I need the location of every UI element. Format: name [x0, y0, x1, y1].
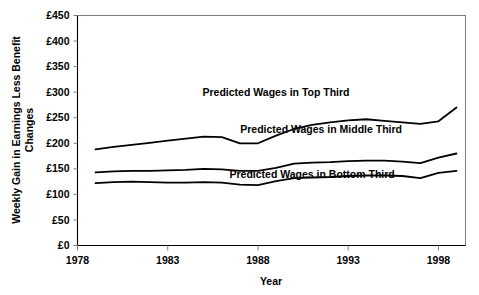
x-tick-label: 1983 [156, 254, 180, 266]
y-tick-label: £450 [46, 9, 70, 21]
chart-background [0, 0, 479, 295]
y-tick-label: £150 [46, 162, 70, 174]
y-tick-label: £250 [46, 111, 70, 123]
x-tick-label: 1998 [427, 254, 451, 266]
x-tick-label: 1988 [246, 254, 270, 266]
y-tick-label: £100 [46, 188, 70, 200]
y-axis-title-line2: Changes [23, 108, 35, 153]
series-annotation-3: Predicted Wages in Bottom Third [229, 168, 394, 180]
y-tick-label: £300 [46, 86, 70, 98]
y-tick-label: £50 [52, 214, 70, 226]
series-annotation-1: Predicted Wages in Top Third [203, 86, 350, 98]
y-tick-label: £0 [58, 239, 70, 251]
chart-container: £0£50£100£150£200£250£300£350£400£450 19… [0, 0, 479, 295]
x-tick-label: 1993 [337, 254, 361, 266]
line-chart: £0£50£100£150£200£250£300£350£400£450 19… [0, 0, 479, 295]
series-annotation-2: Predicted Wages in Middle Third [240, 123, 402, 135]
x-axis-title: Year [260, 275, 282, 287]
y-tick-label: £400 [46, 35, 70, 47]
x-tick-label: 1978 [66, 254, 90, 266]
y-tick-label: £200 [46, 137, 70, 149]
y-axis-title-line1: Weekly Gain in Earnings Less Benefit [10, 36, 22, 224]
y-tick-label: £350 [46, 60, 70, 72]
